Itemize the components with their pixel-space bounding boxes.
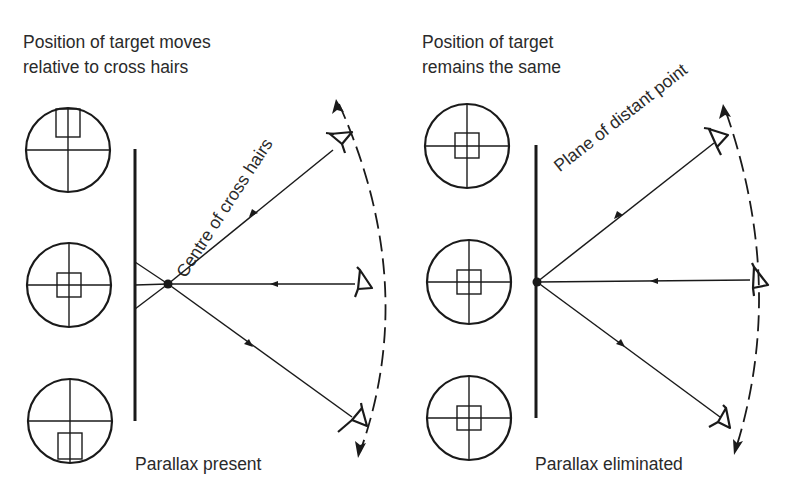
right-reticle-top [425, 104, 509, 188]
right-arc-arrow-up [719, 104, 731, 119]
left-reticle-bottom [28, 379, 112, 463]
parallax-diagram [0, 0, 796, 498]
left-eye-movement-arc [339, 104, 386, 452]
left-eye-middle-icon [355, 267, 372, 297]
left-arc-arrow-down [355, 441, 366, 458]
left-reticle-top [26, 108, 110, 192]
centre-of-cross-hairs-dot [164, 280, 173, 289]
right-eye-top-icon [704, 128, 728, 155]
right-sight-lines [537, 143, 750, 417]
left-sight-lines [168, 150, 355, 417]
left-line-arrows [244, 209, 278, 347]
right-line-arrows [614, 211, 658, 347]
right-reticle-middle [427, 240, 511, 324]
left-eye-top-icon [326, 132, 352, 153]
left-back-rays [135, 262, 168, 309]
right-eye-middle-icon [752, 263, 768, 296]
right-reticle-bottom [427, 376, 511, 460]
left-reticle-middle [27, 243, 111, 327]
distant-point-dot [533, 278, 542, 287]
left-eye-bottom-icon [338, 403, 367, 432]
